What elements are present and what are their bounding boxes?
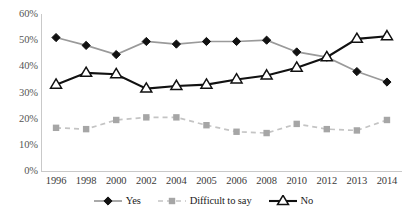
y-tick-label: 20% — [2, 114, 38, 124]
data-point-marker — [173, 114, 179, 120]
data-point-marker — [203, 122, 209, 128]
x-tick-label: 2006 — [226, 174, 247, 187]
data-point-marker — [354, 127, 360, 133]
x-tick-label: 2013 — [347, 174, 368, 187]
series-difficult-to-say — [53, 114, 390, 136]
data-point-marker — [53, 125, 59, 131]
x-tick-label: 2000 — [106, 174, 127, 187]
y-tick-label: 10% — [2, 140, 38, 150]
series-layer — [41, 14, 402, 171]
x-tick-label: 2002 — [136, 174, 157, 187]
data-point-marker — [383, 78, 391, 86]
data-point-marker — [232, 37, 240, 45]
data-point-marker — [381, 31, 392, 40]
data-point-marker — [202, 37, 210, 45]
legend-marker-triangle-icon — [269, 195, 297, 207]
legend-label: Difficult to say — [190, 195, 252, 207]
y-tick-label: 60% — [2, 9, 38, 19]
x-tick-label: 1996 — [46, 174, 67, 187]
legend-item-yes[interactable]: Yes — [94, 195, 141, 207]
x-tick-label: 2004 — [166, 174, 187, 187]
data-point-marker — [233, 129, 239, 135]
series-no — [51, 31, 393, 93]
x-tick-label: 1998 — [76, 174, 97, 187]
x-axis-labels: 1996199820002002200420052006200820102012… — [41, 174, 402, 190]
y-tick-label: 40% — [2, 61, 38, 71]
data-point-marker — [384, 117, 390, 123]
legend-label: Yes — [126, 195, 141, 207]
plot-area — [41, 14, 402, 171]
data-point-marker — [263, 130, 269, 136]
data-point-marker — [324, 126, 330, 132]
y-axis-labels: 0%10%20%30%40%50%60% — [0, 0, 38, 218]
data-point-marker — [81, 67, 92, 76]
data-point-marker — [82, 41, 90, 49]
x-tick-label: 2014 — [377, 174, 398, 187]
series-line — [56, 117, 387, 133]
chart-legend: YesDifficult to sayNo — [0, 192, 407, 210]
x-tick-label: 2012 — [316, 174, 337, 187]
data-point-marker — [113, 117, 119, 123]
y-tick-label: 0% — [2, 166, 38, 176]
data-point-marker — [143, 114, 149, 120]
data-point-marker — [294, 121, 300, 127]
caption-remnant — [78, 209, 404, 218]
legend-marker-diamond-icon — [94, 195, 122, 207]
series-yes — [52, 33, 391, 86]
legend-item-no[interactable]: No — [269, 195, 314, 207]
series-line — [56, 38, 387, 82]
legend-item-difficult-to-say[interactable]: Difficult to say — [158, 195, 252, 207]
x-tick-label: 2005 — [196, 174, 217, 187]
data-point-marker — [353, 67, 361, 75]
data-point-marker — [142, 37, 150, 45]
data-point-marker — [263, 36, 271, 44]
line-chart: 0%10%20%30%40%50%60% 1996199820002002200… — [0, 0, 407, 218]
x-tick-label: 2008 — [256, 174, 277, 187]
data-point-marker — [83, 126, 89, 132]
y-tick-label: 30% — [2, 88, 38, 98]
data-point-marker — [172, 40, 180, 48]
y-tick-label: 50% — [2, 35, 38, 45]
x-tick-label: 2010 — [286, 174, 307, 187]
legend-label: No — [301, 195, 314, 207]
legend-marker-square-icon — [158, 195, 186, 207]
data-point-marker — [52, 33, 60, 41]
data-point-marker — [112, 50, 120, 58]
x-axis-line — [41, 171, 402, 172]
data-point-marker — [293, 48, 301, 56]
